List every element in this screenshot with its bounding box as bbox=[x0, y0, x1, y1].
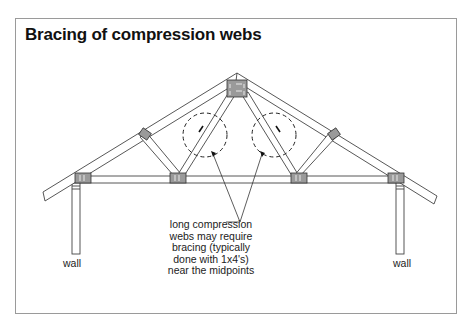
brace-mark-left bbox=[199, 126, 203, 132]
web-right-outer bbox=[294, 132, 336, 176]
right-top-chord bbox=[236, 73, 437, 204]
arrowhead-right bbox=[260, 151, 265, 157]
gusset-right-bottom bbox=[291, 173, 307, 183]
callout-note: long compression webs may require bracin… bbox=[150, 219, 272, 277]
brace-mark-right bbox=[276, 126, 280, 132]
callout-line: near the midpoints bbox=[150, 265, 272, 277]
right-wall-label: wall bbox=[393, 257, 411, 269]
gusset-left-heel bbox=[75, 173, 91, 183]
arrowhead-left bbox=[211, 151, 216, 157]
callout-line: long compression bbox=[150, 219, 272, 231]
callout-line: bracing (typically bbox=[150, 242, 272, 254]
left-wall bbox=[72, 182, 80, 254]
bottom-chord bbox=[72, 176, 404, 183]
gusset-left-bottom bbox=[170, 173, 186, 183]
callout-leader bbox=[213, 154, 262, 222]
left-wall-label: wall bbox=[63, 257, 81, 269]
right-wall bbox=[396, 182, 404, 254]
web-right-inner bbox=[242, 92, 299, 176]
gusset-right-heel bbox=[388, 173, 404, 183]
